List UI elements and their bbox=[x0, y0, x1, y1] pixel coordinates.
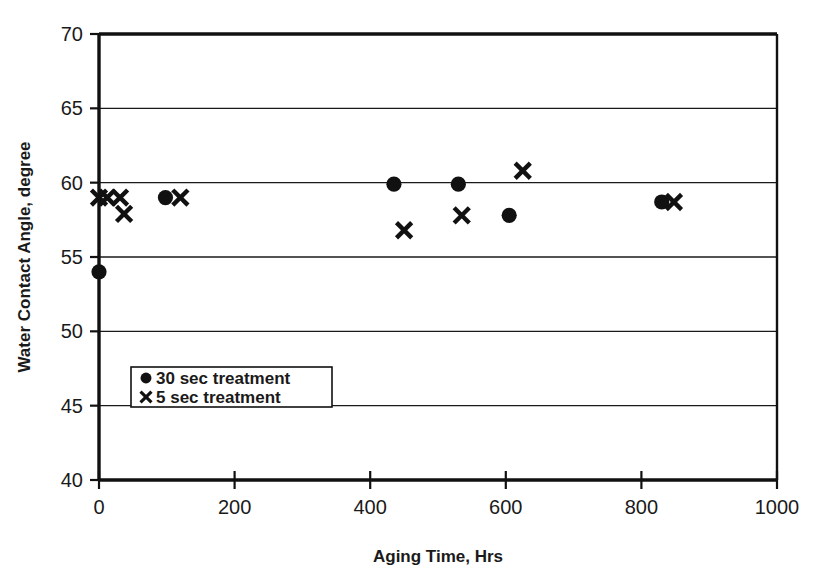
y-tick-label: 70 bbox=[61, 23, 83, 45]
y-tick-label: 45 bbox=[61, 395, 83, 417]
data-point-markers bbox=[91, 163, 681, 279]
data-point bbox=[454, 208, 469, 223]
data-point bbox=[158, 190, 173, 205]
x-tick-label: 200 bbox=[218, 496, 251, 518]
x-tick-label: 400 bbox=[354, 496, 387, 518]
legend-marker-circle bbox=[141, 373, 152, 384]
data-point bbox=[502, 208, 517, 223]
x-axis-tick-labels: 02004006008001000 bbox=[93, 496, 799, 518]
data-point bbox=[386, 177, 401, 192]
series-circle bbox=[91, 177, 669, 280]
data-point bbox=[91, 264, 106, 279]
series-x bbox=[91, 163, 681, 238]
data-point bbox=[112, 190, 127, 205]
x-tick-label: 1000 bbox=[755, 496, 800, 518]
legend-label: 5 sec treatment bbox=[156, 388, 281, 407]
y-axis-tick-labels: 40455055606570 bbox=[61, 23, 83, 491]
y-tick-label: 50 bbox=[61, 320, 83, 342]
data-point bbox=[451, 177, 466, 192]
data-point bbox=[397, 223, 412, 238]
y-tick-label: 40 bbox=[61, 469, 83, 491]
x-tick-label: 800 bbox=[625, 496, 658, 518]
legend: 30 sec treatment5 sec treatment bbox=[131, 367, 332, 407]
chart-figure: 02004006008001000 40455055606570 30 sec … bbox=[0, 0, 824, 588]
y-tick-label: 55 bbox=[61, 246, 83, 268]
y-tick-label: 65 bbox=[61, 97, 83, 119]
legend-label: 30 sec treatment bbox=[156, 369, 291, 388]
y-tick-label: 60 bbox=[61, 172, 83, 194]
scatter-plot: 02004006008001000 40455055606570 30 sec … bbox=[0, 0, 824, 588]
gridlines bbox=[99, 108, 777, 405]
x-tick-label: 0 bbox=[93, 496, 104, 518]
x-axis-title: Aging Time, Hrs bbox=[373, 547, 503, 566]
data-point bbox=[116, 206, 131, 221]
data-point bbox=[173, 190, 188, 205]
y-axis-title: Water Contact Angle, degree bbox=[15, 141, 34, 372]
x-tick-label: 600 bbox=[489, 496, 522, 518]
data-point bbox=[515, 163, 530, 178]
